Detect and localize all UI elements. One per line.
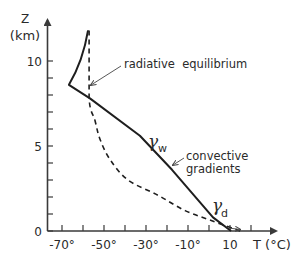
y-tick-label: 5 [34,140,42,154]
y-axis-ticks [48,61,54,231]
y-tick-label: 0 [34,225,42,239]
surface-arrow [229,228,240,230]
convective-label-line1: convective [186,149,248,163]
x-tick-label: -70° [49,238,75,252]
temperature-profile-chart: 0510 -70°-50°-30°-10°10 Z (km) T (°C) ra… [0,0,298,264]
y-axis: 0510 [27,20,53,239]
x-axis: -70°-50°-30°-10°10 [48,225,277,252]
gamma-w-label: γ w [148,131,167,155]
convective-label-line2: gradients [186,162,240,176]
convective-gradients-annotation: convective gradients [173,149,248,176]
x-tick-label: 10 [222,238,237,252]
y-axis-variable: Z [21,12,29,26]
y-tick-label: 10 [27,55,42,69]
x-tick-label: -10° [175,238,201,252]
x-tick-label: -30° [133,238,159,252]
x-axis-title: T (°C) [252,237,291,252]
annotation-arrow [173,158,184,165]
y-axis-unit: (km) [10,28,40,43]
radiative-equilibrium-annotation: radiative equilibrium [91,57,247,85]
gamma-d-subscript: d [221,207,228,220]
annotation-arrow [91,66,121,85]
radiative-equilibrium-label: radiative equilibrium [124,57,247,71]
x-axis-tick-labels: -70°-50°-30°-10°10 [49,238,237,252]
gamma-w-subscript: w [158,142,167,155]
gamma-d-label: γ d [212,195,228,220]
x-tick-label: -50° [91,238,117,252]
y-axis-tick-labels: 0510 [27,55,42,239]
